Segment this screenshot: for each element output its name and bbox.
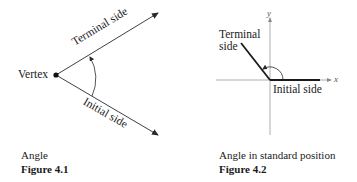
initial-side-label: Initial side	[273, 84, 322, 96]
figure-4-1: Vertex Terminal side Initial side Angle …	[0, 0, 180, 182]
initial-side-ray	[56, 75, 158, 135]
y-axis-label: y	[267, 9, 271, 18]
vertex-label: Vertex	[18, 69, 48, 81]
figure-label: Figure 4.1	[21, 164, 68, 175]
x-axis-label: x	[334, 75, 338, 84]
terminal-side-label-line1: Terminal	[219, 29, 260, 41]
vertex-dot	[53, 72, 58, 77]
terminal-side-ray	[241, 43, 270, 80]
figure-4-2: y x Terminal side Initial side Angle in …	[180, 0, 357, 182]
figure-caption: Angle	[21, 150, 48, 161]
terminal-side-label-line2: side	[219, 41, 238, 53]
figure-label: Figure 4.2	[219, 164, 266, 175]
angle-arc-arrow	[90, 57, 96, 96]
figure-caption: Angle in standard position	[219, 150, 335, 161]
